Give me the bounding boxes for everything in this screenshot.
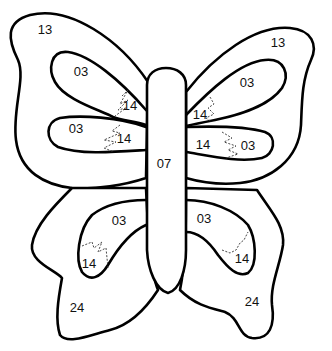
label-lower-right-outer: 24 (245, 295, 259, 308)
label-upper-right-top-lobe: 03 (240, 76, 254, 89)
label-lower-left-inner-accent: 14 (82, 257, 96, 270)
label-upper-right-bottom-lobe: 03 (241, 139, 255, 152)
label-lower-left-inner: 03 (112, 214, 126, 227)
label-lower-right-inner-accent: 14 (235, 252, 249, 265)
label-upper-right-outer: 13 (271, 36, 285, 49)
butterfly-outline (0, 0, 332, 351)
label-upper-left-bottom-lobe: 03 (69, 122, 83, 135)
butterfly-body (147, 68, 186, 293)
label-lower-left-outer: 24 (70, 301, 84, 314)
label-upper-left-top-lobe-accent: 14 (123, 99, 137, 112)
butterfly-coloring-page: 13 13 03 14 03 14 03 14 03 14 07 03 14 0… (0, 0, 332, 351)
label-upper-left-top-lobe: 03 (74, 65, 88, 78)
label-lower-right-inner: 03 (197, 212, 211, 225)
label-upper-right-top-lobe-accent: 14 (193, 108, 207, 121)
label-upper-left-outer: 13 (38, 23, 52, 36)
label-body: 07 (157, 157, 171, 170)
label-upper-right-bottom-lobe-accent: 14 (196, 138, 210, 151)
label-upper-left-bottom-lobe-accent: 14 (117, 132, 131, 145)
